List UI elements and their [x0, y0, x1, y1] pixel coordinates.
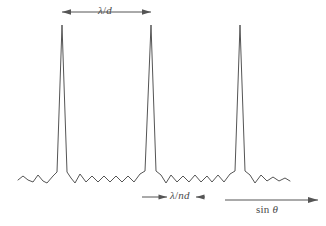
d-symbol: d — [106, 4, 112, 16]
intensity-curve — [18, 25, 290, 183]
arrow-head-right-icon — [308, 197, 318, 203]
nd-symbol: nd — [178, 189, 189, 201]
lambda-over-nd-label: λ/nd — [170, 189, 190, 201]
intensity-plot — [0, 0, 326, 226]
arrow-head-right-icon — [159, 194, 168, 199]
arrow-head-right-icon — [142, 9, 151, 14]
lambda-over-d-label: λ/d — [98, 4, 112, 16]
diffraction-grating-figure: λ/d λ/nd sin θ — [0, 0, 326, 226]
arrow-head-left-icon — [62, 9, 71, 14]
arrow-head-left-icon — [196, 194, 205, 199]
theta-symbol: θ — [272, 203, 278, 215]
sin-theta-label: sin θ — [256, 203, 278, 215]
sin-text: sin — [256, 203, 269, 215]
intensity-curve-group — [18, 25, 290, 183]
